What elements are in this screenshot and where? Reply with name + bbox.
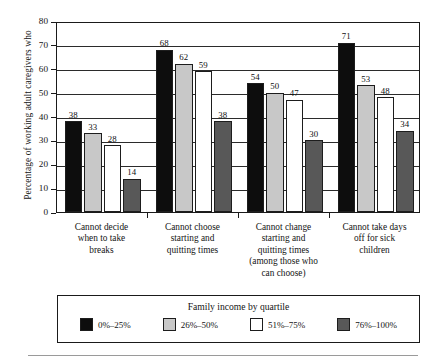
legend-item: 0%–25%	[80, 318, 131, 331]
bar-value-label: 59	[191, 61, 217, 70]
legend: Family income by quartile 0%–25%26%–50%5…	[57, 295, 420, 343]
bar-value-label: 48	[373, 87, 399, 96]
bar-value-label: 68	[152, 39, 178, 48]
bar	[175, 64, 193, 212]
y-tick-label: 50	[0, 89, 48, 98]
legend-item: 76%–100%	[337, 318, 397, 331]
bar-value-label: 33	[80, 123, 106, 132]
x-tick-mark	[329, 213, 330, 218]
y-tick-label: 10	[0, 184, 48, 193]
bar-value-label: 38	[61, 111, 87, 120]
legend-item: 51%–75%	[250, 318, 306, 331]
bar	[377, 97, 395, 212]
y-tick-label: 30	[0, 136, 48, 145]
bar	[84, 133, 102, 212]
x-tick-mark	[238, 213, 239, 218]
bottom-divider	[28, 355, 418, 356]
legend-label: 76%–100%	[355, 320, 397, 330]
bar	[214, 121, 232, 212]
gridline	[57, 46, 419, 47]
y-tick-label: 0	[0, 208, 48, 217]
bar	[396, 131, 414, 212]
bar-chart-figure: Percentage of working adult caregivers w…	[0, 0, 439, 363]
bar-value-label: 34	[392, 120, 418, 129]
legend-swatch	[250, 318, 263, 331]
x-axis-group-label: Cannot choosestarting andquitting times	[147, 222, 238, 256]
bar-value-label: 38	[210, 111, 236, 120]
legend-items: 0%–25%26%–50%51%–75%76%–100%	[58, 318, 419, 331]
bar	[305, 140, 323, 212]
x-tick-mark	[147, 213, 148, 218]
legend-label: 0%–25%	[98, 320, 131, 330]
bar	[338, 43, 356, 213]
y-tick-label: 70	[0, 41, 48, 50]
y-tick-label: 40	[0, 113, 48, 122]
bar	[286, 100, 304, 212]
bar-value-label: 28	[100, 135, 126, 144]
bar	[156, 50, 174, 212]
bar	[247, 83, 265, 212]
gridline	[57, 70, 419, 71]
x-axis-group-label: Cannot changestarting andquitting times(…	[238, 222, 329, 279]
bar-value-label: 14	[119, 168, 145, 177]
bar	[104, 145, 122, 212]
legend-title: Family income by quartile	[58, 301, 419, 312]
bar-value-label: 53	[353, 75, 379, 84]
y-tick-label: 60	[0, 65, 48, 74]
bar	[195, 71, 213, 212]
bar	[65, 121, 83, 212]
bar-value-label: 47	[282, 89, 308, 98]
x-axis-group-label: Cannot decidewhen to takebreaks	[56, 222, 147, 256]
legend-swatch	[337, 318, 350, 331]
bar-value-label: 71	[334, 32, 360, 41]
x-axis-group-label: Cannot take daysoff for sickchildren	[329, 222, 420, 256]
plot-area: 38332814686259385450473071534834	[56, 22, 420, 213]
y-tick-label: 80	[0, 17, 48, 26]
legend-label: 51%–75%	[268, 320, 306, 330]
bar	[357, 85, 375, 212]
legend-swatch	[163, 318, 176, 331]
legend-label: 26%–50%	[181, 320, 219, 330]
legend-swatch	[80, 318, 93, 331]
bar	[123, 179, 141, 212]
bar-value-label: 30	[301, 130, 327, 139]
y-tick-label: 20	[0, 160, 48, 169]
bar-value-label: 54	[243, 73, 269, 82]
bar	[266, 93, 284, 212]
legend-item: 26%–50%	[163, 318, 219, 331]
